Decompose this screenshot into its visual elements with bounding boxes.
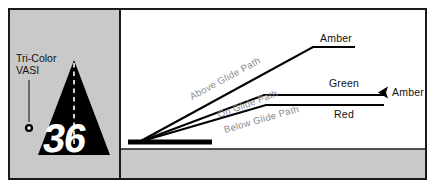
runway-designator-36: 36 (40, 116, 89, 161)
vasi-caption-line1: Tri-Color (16, 52, 57, 64)
right-panel: Amber Above Glide Path Green On Glide Pa… (120, 9, 426, 179)
above-glide-path-indication-label: Amber (320, 32, 352, 44)
pointer-amber-label: Amber (392, 86, 424, 98)
ground-background (120, 149, 426, 179)
on-glide-path-indication-label: Green (329, 77, 359, 89)
below-glide-path-indication-label: Red (334, 108, 354, 120)
vasi-caption-line2: VASI (16, 64, 39, 76)
left-panel: 36 Tri-Color VASI (9, 9, 120, 179)
vasi-diagram-figure: 36 Tri-Color VASI Amber Above Glide (0, 0, 434, 188)
vasi-light-marker-inner (27, 126, 30, 129)
